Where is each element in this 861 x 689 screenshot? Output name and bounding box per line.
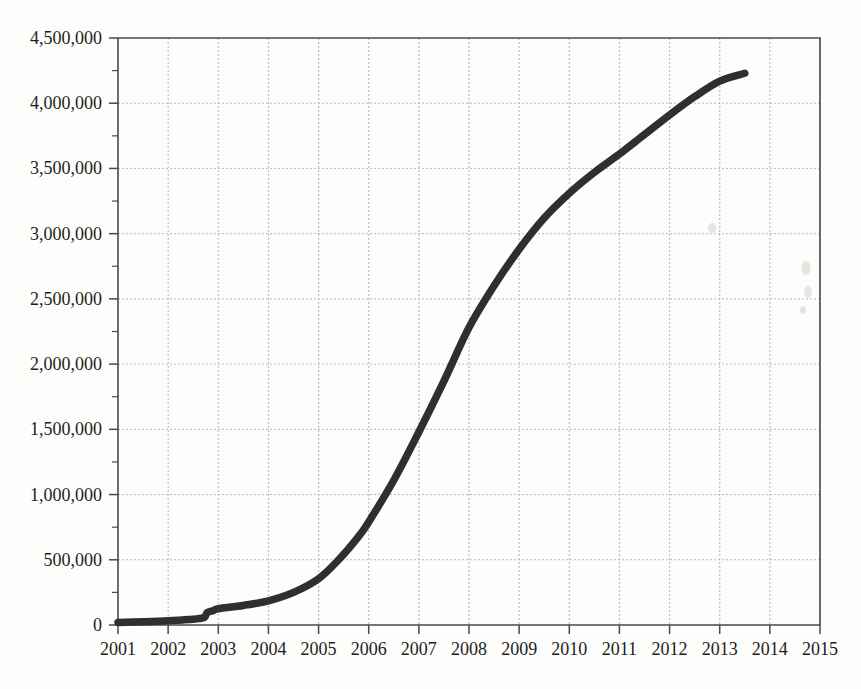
y-tick-label: 4,500,000 [30, 28, 102, 48]
x-axis-tick-labels: 2001200220032004200520062007200820092010… [100, 639, 838, 659]
y-tick-label: 3,500,000 [30, 158, 102, 178]
y-tick-label: 2,500,000 [30, 289, 102, 309]
series-line [118, 73, 745, 622]
y-tick-label: 2,000,000 [30, 354, 102, 374]
line-chart: 0500,0001,000,0001,500,0002,000,0002,500… [0, 0, 861, 689]
x-tick-label: 2006 [351, 639, 387, 659]
x-tick-label: 2009 [501, 639, 537, 659]
minor-gridlines [169, 38, 821, 625]
x-tick-label: 2011 [602, 639, 637, 659]
x-tick-label: 2014 [752, 639, 788, 659]
x-tick-label: 2007 [401, 639, 437, 659]
scan-speck [800, 306, 806, 314]
x-tick-label: 2012 [652, 639, 688, 659]
y-tick-label: 1,500,000 [30, 419, 102, 439]
y-tick-label: 1,000,000 [30, 485, 102, 505]
x-tick-label: 2004 [250, 639, 286, 659]
scan-speck [802, 261, 811, 275]
x-tick-label: 2008 [451, 639, 487, 659]
y-tick-label: 3,000,000 [30, 224, 102, 244]
x-tick-label: 2010 [551, 639, 587, 659]
scan-speck [708, 223, 716, 233]
scan-artifacts [708, 223, 812, 314]
x-tick-label: 2015 [802, 639, 838, 659]
chart-canvas: 0500,0001,000,0001,500,0002,000,0002,500… [0, 0, 861, 689]
x-tick-label: 2005 [301, 639, 337, 659]
x-tick-label: 2002 [150, 639, 186, 659]
y-axis-tick-labels: 0500,0001,000,0001,500,0002,000,0002,500… [30, 28, 102, 635]
y-tick-label: 0 [93, 615, 102, 635]
x-tick-label: 2003 [200, 639, 236, 659]
y-tick-label: 500,000 [44, 550, 103, 570]
y-tick-label: 4,000,000 [30, 93, 102, 113]
x-tick-label: 2013 [702, 639, 738, 659]
scan-speck [804, 286, 812, 298]
x-tick-label: 2001 [100, 639, 136, 659]
data-series-layer [118, 73, 745, 622]
